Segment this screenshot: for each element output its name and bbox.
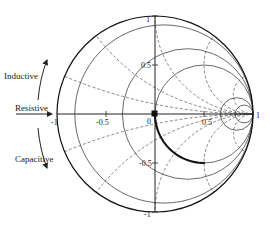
inductive-arrow-icon <box>38 60 47 100</box>
origin-marker <box>152 111 158 117</box>
capacitive-arrow-icon <box>38 128 47 168</box>
tick-re-neg05: -0.5 <box>96 118 109 127</box>
tick-im-neg05: -0.5 <box>139 159 152 168</box>
tick-re-05: 0.5 <box>202 118 212 127</box>
tick-re-1: 1 <box>256 111 260 120</box>
tick-im-neg1: -1 <box>144 210 151 219</box>
tick-re-neg1: -1 <box>51 118 58 127</box>
tick-im-05: 0.5 <box>141 61 151 70</box>
data-point <box>203 162 205 164</box>
reactance-arcs <box>0 0 270 230</box>
data-series <box>154 113 205 164</box>
tick-re-0: 0 <box>147 117 151 126</box>
tick-im-1: 1 <box>146 15 150 24</box>
smith-chart: -1 -0.5 0 0.5 1 1 0.5 -0.5 -1 <box>0 0 270 230</box>
